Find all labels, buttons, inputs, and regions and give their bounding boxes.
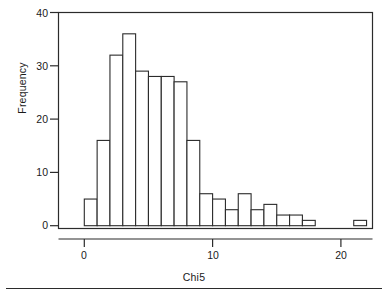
footer-divider [6, 288, 382, 289]
histogram-figure: Frequency 40 30 20 10 0 0 10 20 Chi5 [0, 0, 388, 295]
histogram-bar [354, 220, 367, 225]
histogram-bars [84, 34, 366, 226]
histogram-bar [174, 82, 187, 226]
histogram-bar [84, 199, 97, 226]
histogram-bar [238, 194, 251, 226]
histogram-bar [225, 210, 238, 226]
histogram-bar [136, 71, 149, 226]
histogram-bar [290, 215, 303, 226]
histogram-bar [97, 140, 110, 225]
histogram-bar [264, 204, 277, 225]
x-axis-line [59, 239, 373, 247]
histogram-bar [213, 199, 226, 226]
y-axis-ticks [50, 13, 59, 226]
histogram-bar [187, 140, 200, 225]
histogram-bar [200, 194, 213, 226]
histogram-bar [251, 210, 264, 226]
histogram-bar [277, 215, 290, 226]
histogram-bar [161, 76, 174, 225]
histogram-bar [302, 220, 315, 225]
histogram-bar [123, 34, 136, 226]
plot-area [0, 0, 388, 295]
histogram-bar [110, 55, 123, 226]
histogram-bar [148, 76, 161, 225]
